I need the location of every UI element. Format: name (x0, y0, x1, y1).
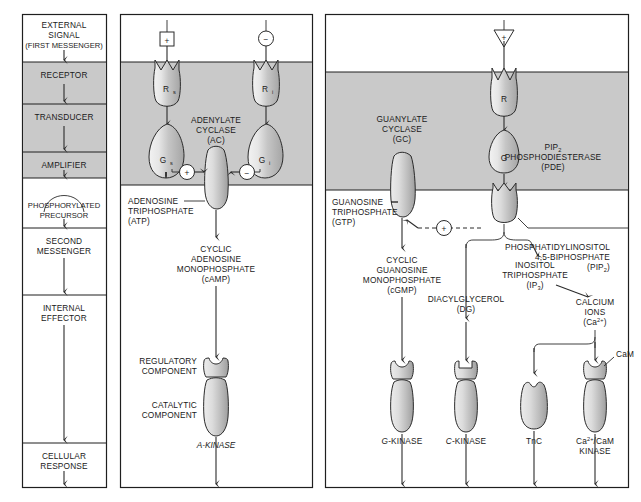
cgmp-label-2: GUANOSINE (376, 265, 427, 275)
g-kinase-label-rest: -KINASE (388, 436, 423, 446)
g-protein-gs-sub: s (170, 160, 173, 166)
regulatory-component-label-1: REGULATORY (139, 356, 197, 366)
c-kinase-body-shape (455, 380, 478, 432)
g-protein-gi-sub: i (269, 160, 270, 166)
stage-label-external-signal-1: EXTERNAL (41, 20, 86, 30)
plus-box-label: + (165, 36, 170, 46)
figure-canvas: EXTERNAL SIGNAL (FIRST MESSENGER) RECEPT… (0, 0, 641, 502)
ip3-label-3a: (IP (526, 280, 537, 290)
cam-kinase-body-shape (584, 380, 607, 432)
stage-label-second-messenger-1: SECOND (46, 236, 82, 246)
ip3-label-3: (IP3) (526, 280, 543, 291)
stage-label-external-signal-2: SIGNAL (48, 30, 80, 40)
signal-transduction-diagram: EXTERNAL SIGNAL (FIRST MESSENGER) RECEPT… (0, 0, 641, 502)
stage-label-external-signal-3: (FIRST MESSENGER) (25, 41, 103, 50)
adenylate-cyclase-label-2: CYCLASE (196, 125, 236, 135)
camp-label-2: ADENOSINE (191, 254, 242, 264)
plus-circle-activation-label: + (442, 224, 447, 234)
right-panel: + R G GUANYLATE CYCLASE (GC) PIP2 PHOSPH… (326, 15, 634, 488)
pde-label-pip: PIP (544, 142, 558, 152)
calcium-label-3: (Ca2+) (583, 317, 607, 327)
cam-label: CaM (616, 349, 634, 359)
tnc-shape (521, 382, 548, 429)
minus-circle-label: − (264, 34, 269, 44)
camp-label-3: MONOPHOSPHATE (177, 264, 256, 274)
catalytic-component-label-2: COMPONENT (142, 410, 197, 420)
ip3-label-1: INOSITOL (515, 260, 555, 270)
calcium-label-3-end: ) (604, 317, 607, 327)
calcium-label-3-sup: 2+ (597, 317, 604, 323)
stage-label-precursor-2: PRECURSOR (40, 211, 89, 220)
calcium-label-3a: (Ca (583, 317, 597, 327)
cgmp-label-1: CYCLIC (386, 255, 417, 265)
atp-label-2: TRIPHOSPHATE (128, 206, 194, 216)
gtp-label-3: (GTP) (332, 217, 355, 227)
g-protein-gs-label: G (160, 155, 167, 165)
stage-label-second-messenger-2: MESSENGER (37, 246, 91, 256)
stage-label-cellular-response-1: CELLULAR (42, 451, 86, 461)
stage-label-transducer: TRANSDUCER (34, 112, 93, 122)
plus-circle-stim-label: + (185, 168, 190, 178)
guanylate-cyclase-label-1: GUANYLATE (377, 114, 428, 124)
pip2-label-3a: (PIP (587, 262, 604, 272)
calcium-label-2: IONS (585, 307, 606, 317)
g-protein-gi-label: G (259, 155, 266, 165)
camp-label-1: CYCLIC (200, 244, 231, 254)
cam-kinase-label-sup: 2+ (587, 436, 594, 442)
middle-panel: + R s G s − R i G i ADENYLATE CYCLASE (A… (121, 15, 313, 488)
adenylate-cyclase-label-3: (AC) (207, 135, 225, 145)
stage-label-cellular-response-2: RESPONSE (40, 461, 88, 471)
gtp-label-1: GUANOSINE (332, 197, 383, 207)
catalytic-component-shape (204, 378, 229, 436)
receptor-rs-sub: s (173, 89, 176, 95)
calcium-label-1: CALCIUM (576, 297, 614, 307)
receptor-r-shape (491, 68, 518, 116)
guanylate-cyclase-label-2: CYCLASE (382, 124, 422, 134)
minus-circle-inhib-label: − (245, 168, 250, 178)
adenylate-cyclase-label-1: ADENYLATE (191, 115, 241, 125)
atp-label-3: (ATP) (128, 216, 150, 226)
pip2-label-1: PHOSPHATIDYLINOSITOL (505, 242, 610, 252)
stage-label-receptor: RECEPTOR (40, 70, 87, 80)
stage-label-amplifier: AMPLIFIER (41, 160, 86, 170)
camp-label-4: (cAMP) (202, 274, 231, 284)
regulatory-component-label-2: COMPONENT (142, 366, 197, 376)
stage-label-internal-effector-2: EFFECTOR (41, 313, 87, 323)
g-kinase-body-shape (391, 380, 414, 432)
gtp-label-2: TRIPHOSPHATE (332, 207, 398, 217)
receptor-ri-label: R (262, 84, 268, 94)
cam-kinase-label-mid: /CaM (594, 436, 614, 446)
cgmp-label-4: (cGMP) (387, 285, 417, 295)
pde-label-3: (PDE) (541, 162, 564, 172)
c-kinase-label-rest: -KINASE (452, 436, 487, 446)
guanylate-cyclase-label-3: (GC) (393, 134, 412, 144)
catalytic-component-label-1: CATALYTIC (152, 400, 197, 410)
cgmp-label-3: MONOPHOSPHATE (363, 275, 442, 285)
left-panel: EXTERNAL SIGNAL (FIRST MESSENGER) RECEPT… (23, 15, 107, 488)
pip2-label-3: (PIP2) (587, 262, 610, 273)
adenylate-cyclase-shape (205, 146, 229, 209)
cam-kinase-label-ca: Ca (576, 436, 587, 446)
phosphodiesterase-shape (492, 183, 518, 223)
ip3-label-2: TRIPHOSPHATE (502, 270, 568, 280)
receptor-rs-label: R (163, 84, 169, 94)
receptor-ri-sub: i (272, 89, 273, 95)
stage-label-precursor-1: PHOSPHORYLATED (28, 201, 101, 210)
receptor-r-label: R (501, 94, 507, 104)
pde-label-2: PHOSPHODIESTERASE (505, 152, 602, 162)
pip2-label-3-end: ) (607, 262, 610, 272)
ip3-label-3-end: ) (541, 280, 544, 290)
dg-label-1: DIACYLGLYCEROL (428, 294, 505, 304)
stage-label-internal-effector-1: INTERNAL (43, 303, 85, 313)
atp-label-1: ADENOSINE (128, 196, 179, 206)
dg-label-2: (DG) (457, 304, 476, 314)
